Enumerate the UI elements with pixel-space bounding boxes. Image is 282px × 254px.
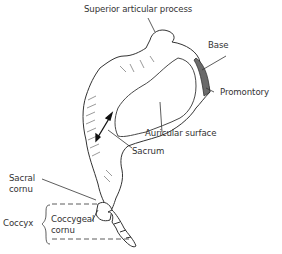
label-coccyx: Coccyx [3,218,33,228]
label-coccygeal-cornu-1: Coccygeal [51,214,94,224]
sacrum-coccyx-diagram: Superior articular process Base Promonto… [0,0,282,254]
label-auricular-surface: Auricular surface [145,128,216,138]
label-base: Base [208,40,229,50]
bone-illustration [0,0,282,254]
label-coccygeal-cornu-2: cornu [51,225,75,235]
label-sacrum: Sacrum [132,146,164,156]
label-superior-articular-process: Superior articular process [84,4,192,14]
coccyx-bone [96,202,136,246]
label-sacral-cornu-1: Sacral [9,173,35,183]
label-promontory: Promontory [220,87,269,97]
label-sacral-cornu-2: cornu [9,184,33,194]
